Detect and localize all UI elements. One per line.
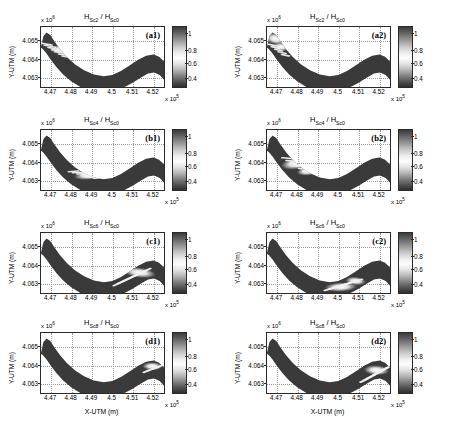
colorbar-tick-label: 1: [414, 236, 418, 243]
x-tick-label: 4.48: [291, 88, 303, 95]
y-tick-mark: [38, 59, 41, 60]
y-tick-mark: [264, 143, 267, 144]
x-tick-label: 4.51: [126, 191, 138, 198]
colorbar-tick-mark: [185, 153, 188, 154]
colorbar-tick-mark: [411, 256, 414, 257]
y-axis-ticks-c1: 4.0654.0644.063: [0, 232, 38, 292]
x-tick-label: 4.52: [373, 294, 385, 301]
plot-area-c2: (c2): [266, 232, 391, 294]
y-exponent-d2: x 106: [267, 321, 281, 329]
x-tick-label: 4.52: [373, 191, 385, 198]
colorbar-tick-mark: [185, 181, 188, 182]
y-tick-mark: [38, 143, 41, 144]
y-tick-mark: [264, 40, 267, 41]
x-axis-ticks-d1: 4.474.484.494.54.514.52: [40, 393, 163, 405]
x-axis-ticks-a1: 4.474.484.494.54.514.52: [40, 87, 163, 99]
x-tick-label: 4.51: [126, 88, 138, 95]
colorbar-tick-mark: [411, 269, 414, 270]
panel-title-d2: HSc8 / HSc0: [266, 318, 389, 329]
colorbar-tick-mark: [185, 50, 188, 51]
y-tick-mark: [264, 283, 267, 284]
colorbar-tick-label: 0.6: [188, 366, 197, 373]
x-tick-label: 4.52: [147, 88, 159, 95]
y-tick-label: 4.065: [22, 343, 38, 350]
y-tick-mark: [264, 59, 267, 60]
x-tick-label: 4.47: [270, 394, 282, 401]
colorbar-tick-mark: [185, 356, 188, 357]
y-tick-label: 4.065: [248, 140, 264, 147]
x-tick-label: 4.47: [44, 191, 56, 198]
x-tick-label: 4.48: [291, 191, 303, 198]
panel-label-b1: (b1): [145, 133, 160, 143]
colorbar-tick-label: 0.8: [414, 353, 423, 360]
y-axis-ticks-d1: 4.0654.0644.063: [0, 332, 38, 392]
panel-label-c1: (c1): [146, 236, 160, 246]
x-tick-label: 4.48: [65, 88, 77, 95]
y-tick-mark: [38, 265, 41, 266]
x-tick-label: 4.51: [126, 294, 138, 301]
panel-d2: HSc8 / HSc0x 106(d2)4.0654.0644.0634.474…: [226, 316, 452, 418]
y-exponent-a1: x 106: [41, 15, 55, 23]
colorbar-tick-mark: [185, 256, 188, 257]
y-axis-ticks-b2: 4.0654.0644.063: [226, 129, 264, 189]
y-tick-label: 4.064: [248, 158, 264, 165]
plot-area-d2: (d2): [266, 332, 391, 394]
panel-title-b1: HSc4 / HSc0: [40, 115, 163, 126]
colorbar-tick-label: 0.6: [188, 60, 197, 67]
y-tick-mark: [264, 346, 267, 347]
colorbar-tick-mark: [411, 339, 414, 340]
panel-title-b2: HSc4 / HSc0: [266, 115, 389, 126]
x-tick-label: 4.47: [270, 294, 282, 301]
x-tick-label: 4.48: [291, 394, 303, 401]
colorbar-tick-mark: [411, 63, 414, 64]
x-tick-label: 4.51: [352, 191, 364, 198]
y-tick-mark: [264, 180, 267, 181]
plot-area-b1: (b1): [40, 129, 165, 191]
x-tick-label: 4.5: [107, 88, 116, 95]
colorbar-tick-label: 0.4: [188, 381, 197, 388]
colorbar-tick-label: 1: [188, 336, 192, 343]
y-tick-label: 4.063: [22, 74, 38, 81]
colorbar-tick-label: 0.8: [414, 150, 423, 157]
colorbar-tick-mark: [185, 136, 188, 137]
colorbar-tick-mark: [411, 384, 414, 385]
plot-area-b2: (b2): [266, 129, 391, 191]
x-tick-label: 4.49: [311, 394, 323, 401]
y-axis-label-a2: Y-UTM (m): [234, 46, 241, 78]
x-axis-ticks-a2: 4.474.484.494.54.514.52: [266, 87, 389, 99]
x-exponent-d1: x 105: [165, 400, 179, 408]
colorbar-tick-label: 0.8: [188, 253, 197, 260]
colorbar-tick-label: 0.6: [414, 366, 423, 373]
x-tick-label: 4.52: [147, 294, 159, 301]
x-tick-label: 4.5: [107, 191, 116, 198]
x-axis-label-d1: X-UTM (m): [40, 408, 163, 415]
y-axis-label-a1: Y-UTM (m): [8, 46, 15, 78]
x-exponent-d2: x 105: [391, 400, 405, 408]
x-tick-label: 4.52: [373, 394, 385, 401]
x-tick-label: 4.5: [107, 394, 116, 401]
colorbar-tick-label: 0.6: [414, 60, 423, 67]
y-tick-label: 4.063: [22, 177, 38, 184]
x-tick-label: 4.49: [85, 191, 97, 198]
y-tick-mark: [38, 40, 41, 41]
colorbar-tick-label: 0.4: [414, 178, 423, 185]
y-exponent-a2: x 106: [267, 15, 281, 23]
colorbar-tick-mark: [411, 50, 414, 51]
y-tick-label: 4.063: [248, 177, 264, 184]
y-axis-ticks-d2: 4.0654.0644.063: [226, 332, 264, 392]
colorbar-tick-label: 0.4: [188, 281, 197, 288]
colorbar-tick-label: 0.8: [188, 353, 197, 360]
y-tick-mark: [38, 365, 41, 366]
colorbar-tick-label: 1: [414, 336, 418, 343]
y-exponent-c1: x 106: [41, 221, 55, 229]
y-axis-ticks-a2: 4.0654.0644.063: [226, 26, 264, 86]
panel-title-c1: HSc6 / HSc0: [40, 218, 163, 229]
x-tick-label: 4.51: [126, 394, 138, 401]
y-tick-label: 4.063: [248, 74, 264, 81]
x-tick-label: 4.51: [352, 294, 364, 301]
colorbar-tick-label: 0.4: [414, 281, 423, 288]
y-tick-mark: [38, 383, 41, 384]
x-tick-label: 4.5: [107, 294, 116, 301]
colorbar-tick-mark: [411, 356, 414, 357]
colorbar-tick-mark: [185, 63, 188, 64]
